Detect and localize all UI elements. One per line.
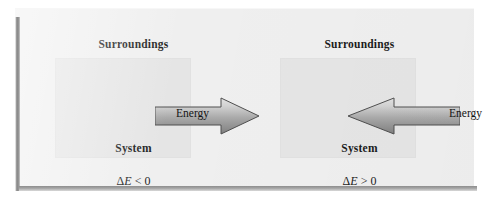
energy-label-exothermic: Energy (176, 107, 209, 119)
frame-left-shadow (15, 17, 20, 191)
surroundings-label-endothermic: Surroundings (245, 38, 474, 50)
energy-entering-system-arrow (348, 96, 460, 136)
system-label-endothermic: System (245, 142, 474, 154)
arrow-left-icon (348, 96, 460, 136)
panel-exothermic: Surroundings System ΔE < 0 Energy (19, 16, 248, 198)
system-label-exothermic: System (19, 142, 248, 154)
energy-label-endothermic: Energy (449, 107, 482, 119)
frame-top-edge (15, 8, 474, 9)
panel-endothermic: Surroundings System ΔE > 0 Energy (245, 16, 474, 198)
frame-bottom-shadow (19, 186, 477, 191)
surroundings-label-exothermic: Surroundings (19, 38, 248, 50)
figure-panel: Surroundings System ΔE < 0 Energy (15, 8, 474, 190)
